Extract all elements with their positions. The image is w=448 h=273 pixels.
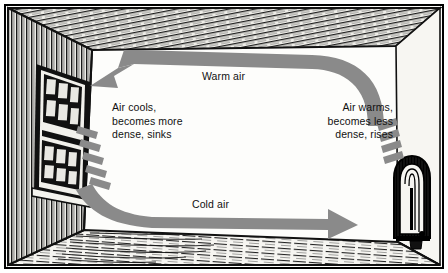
window [32,64,90,207]
label-warm-air: Warm air [202,70,245,84]
annotation-air-warms: Air warms, becomes less dense, rises [289,101,393,142]
radiator [394,156,430,249]
diagram-frame: Warm air Cold air Air cools, becomes mor… [4,4,444,269]
label-cold-air: Cold air [192,198,229,212]
diagram-canvas: Warm air Cold air Air cools, becomes mor… [0,0,448,273]
annotation-air-cools: Air cools, becomes more dense, sinks [112,101,183,142]
